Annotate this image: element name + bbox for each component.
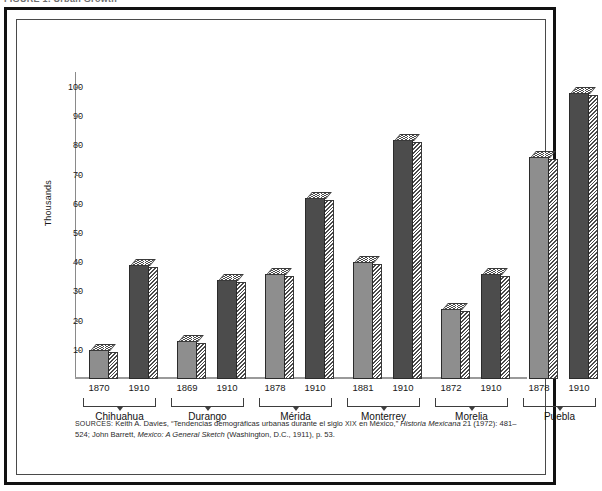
- x-year-label-puebla-1878: 1878: [523, 382, 555, 393]
- chart-plot-area: Thousands 100908070605040302010 18701910…: [17, 20, 547, 476]
- bar-front-face: [305, 198, 325, 379]
- bar-top-face-hatched: [130, 259, 156, 266]
- figure-inner-frame: Thousands 100908070605040302010 18701910…: [16, 19, 546, 475]
- bar-side-face-hatched: [285, 276, 294, 379]
- group-brace-chihuahua: [83, 398, 156, 407]
- bar-top-face-hatched: [306, 192, 332, 199]
- bar-side-face-hatched: [373, 264, 382, 379]
- bar-durango-1869: [177, 341, 197, 379]
- bar-side-face-hatched: [589, 95, 598, 379]
- x-year-label-chihuahua-1910: 1910: [123, 382, 155, 393]
- source-smallcaps-xix: XIX: [345, 420, 357, 427]
- bar-side-face-hatched: [413, 142, 422, 379]
- bar-side-face-hatched: [109, 352, 118, 379]
- group-brace-morelia: [435, 398, 508, 407]
- bar-mrida-1878: [265, 274, 285, 379]
- bar-side-face-hatched: [237, 282, 246, 379]
- bar-side-face-hatched: [549, 159, 558, 379]
- bar-morelia-1872: [441, 309, 461, 379]
- group-brace-durango: [171, 398, 244, 407]
- source-journal-title-cont: Mexicana: [428, 419, 461, 428]
- bar-chihuahua-1910: [129, 265, 149, 379]
- source-book-title: Mexico: A General Sketch: [137, 430, 224, 439]
- source-journal-title: Historia: [400, 419, 426, 428]
- bar-top-face-hatched: [394, 134, 420, 141]
- bar-chihuahua-1870: [89, 350, 109, 379]
- x-year-label-durango-1869: 1869: [171, 382, 203, 393]
- bar-front-face: [353, 262, 373, 379]
- bar-morelia-1910: [481, 274, 501, 379]
- bar-front-face: [217, 280, 237, 379]
- x-year-label-chihuahua-1870: 1870: [83, 382, 115, 393]
- bar-mrida-1910: [305, 198, 325, 379]
- source-note: SOURCES: Keith A. Davies, “Tendencias de…: [75, 418, 523, 440]
- bar-side-face-hatched: [197, 343, 206, 379]
- group-brace-mrida: [259, 398, 332, 407]
- bar-front-face: [177, 341, 197, 379]
- bar-front-face: [569, 93, 589, 379]
- x-year-label-puebla-1910: 1910: [563, 382, 595, 393]
- x-year-label-monterrey-1881: 1881: [347, 382, 379, 393]
- bar-side-face-hatched: [325, 200, 334, 379]
- bar-top-face-hatched: [266, 268, 292, 275]
- figure-outer-frame: Thousands 100908070605040302010 18701910…: [4, 7, 556, 485]
- source-prefix: SOURCES:: [75, 420, 113, 427]
- bar-front-face: [441, 309, 461, 379]
- bar-durango-1910: [217, 280, 237, 379]
- bar-front-face: [393, 140, 413, 379]
- group-brace-monterrey: [347, 398, 420, 407]
- bar-front-face: [481, 274, 501, 379]
- bar-front-face: [89, 350, 109, 379]
- clipped-caption-text: FIGURE 1. Urban Growth: [4, 0, 117, 4]
- bar-side-face-hatched: [149, 267, 158, 379]
- clipped-caption-strip: FIGURE 1. Urban Growth: [0, 0, 564, 7]
- bar-top-face-hatched: [442, 303, 468, 310]
- x-year-label-monterrey-1910: 1910: [387, 382, 419, 393]
- bar-top-face-hatched: [354, 256, 380, 263]
- group-brace-puebla: [523, 398, 596, 407]
- bar-top-face-hatched: [570, 87, 596, 94]
- bar-front-face: [129, 265, 149, 379]
- x-year-label-mrida-1910: 1910: [299, 382, 331, 393]
- source-line1-a: Keith A. Davies, “Tendencias demográfica…: [113, 419, 345, 428]
- bar-front-face: [529, 157, 549, 379]
- y-axis-title: Thousands: [43, 180, 57, 226]
- x-year-label-morelia-1910: 1910: [475, 382, 507, 393]
- bar-puebla-1878: [529, 157, 549, 379]
- bar-monterrey-1881: [353, 262, 373, 379]
- x-year-label-morelia-1872: 1872: [435, 382, 467, 393]
- group-label-puebla: Puebla: [513, 411, 602, 422]
- bar-top-face-hatched: [218, 274, 244, 281]
- bar-front-face: [265, 274, 285, 379]
- bar-top-face-hatched: [90, 344, 116, 351]
- bar-top-face-hatched: [482, 268, 508, 275]
- x-year-label-mrida-1878: 1878: [259, 382, 291, 393]
- bar-puebla-1910: [569, 93, 589, 379]
- bar-top-face-hatched: [530, 151, 556, 158]
- bar-monterrey-1910: [393, 140, 413, 379]
- source-line2-b: (Washington, D.C., 1911), p. 53.: [225, 430, 335, 439]
- x-year-label-durango-1910: 1910: [211, 382, 243, 393]
- bar-top-face-hatched: [178, 335, 204, 342]
- bar-side-face-hatched: [461, 311, 470, 379]
- bars-layer: [75, 60, 527, 379]
- source-line1-b: en México,”: [357, 419, 400, 428]
- bar-side-face-hatched: [501, 276, 510, 379]
